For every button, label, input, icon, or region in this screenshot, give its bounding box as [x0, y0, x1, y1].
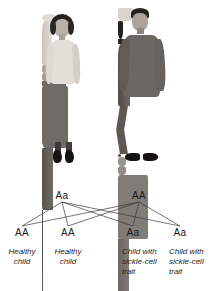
child-caption-4: Child with sickle-cell trait: [169, 247, 204, 277]
child-caption-1: Healthy child: [8, 247, 35, 267]
skirt: [42, 86, 68, 148]
child-genotype-1: AA: [15, 227, 29, 238]
tie: [118, 21, 123, 39]
mother-figure: [42, 14, 86, 166]
parent-genotype-2: AA: [132, 190, 146, 201]
right-boot: [65, 150, 74, 163]
child-caption-2: Healthy child: [54, 247, 81, 267]
neck: [137, 28, 144, 34]
hair-right-side: [68, 21, 74, 35]
parent-genotype-1: Aa: [56, 190, 69, 201]
right-lapel: [116, 130, 128, 154]
left-lapel: [116, 106, 128, 130]
parent-figures: [0, 0, 210, 170]
child-genotype-2: AA: [61, 227, 75, 238]
left-boot: [53, 150, 62, 163]
right-arm: [154, 39, 167, 91]
left-shoe: [125, 153, 140, 161]
hair-left-side: [50, 21, 56, 35]
right-arm: [72, 44, 81, 84]
child-genotype-4: Aa: [174, 227, 187, 238]
right-shoe: [143, 153, 158, 161]
father-figure: [118, 8, 166, 168]
child-caption-3: Child with sickle-cell trait: [122, 247, 157, 277]
child-genotype-3: Aa: [127, 227, 140, 238]
pedigree-diagram: AaAAAAAAAaAa Healthy childHealthy childC…: [0, 170, 210, 291]
